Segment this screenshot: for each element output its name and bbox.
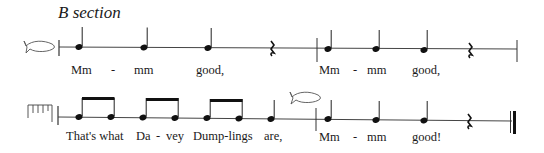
lyric-syllable: mm bbox=[367, 130, 386, 145]
fish-icon bbox=[24, 41, 54, 53]
quarter-note bbox=[324, 100, 333, 123]
staff-line-2 bbox=[28, 92, 516, 134]
lyric-syllable: mm bbox=[367, 63, 386, 78]
quarter-rest bbox=[271, 41, 274, 56]
lyric-syllable: Mm bbox=[319, 130, 340, 145]
quarter-note bbox=[75, 27, 84, 51]
lyric-hyphen: - bbox=[353, 63, 357, 78]
lyric-syllable: Mm bbox=[319, 63, 340, 78]
lyric-syllable: good! bbox=[412, 130, 441, 145]
quarter-note bbox=[420, 30, 429, 54]
quarter-note bbox=[140, 28, 149, 52]
lyric-syllable: That's what bbox=[66, 129, 123, 144]
quarter-note bbox=[324, 30, 333, 53]
final-double-barline bbox=[511, 111, 517, 134]
quarter-note bbox=[372, 101, 381, 124]
quarter-rest bbox=[469, 43, 472, 58]
lyric-hyphen: - bbox=[156, 129, 160, 144]
lyric-syllable: are, bbox=[264, 129, 282, 144]
quarter-rest bbox=[468, 114, 471, 129]
fish-icon bbox=[290, 92, 320, 104]
quarter-note bbox=[267, 100, 276, 123]
quarter-note bbox=[372, 30, 381, 53]
lyric-hyphen: - bbox=[353, 130, 357, 145]
lyric-syllable: mm bbox=[134, 63, 153, 78]
lyric-hyphen: - bbox=[111, 63, 115, 78]
lyric-syllable: Dump-lings bbox=[193, 129, 253, 144]
lyric-syllable: Da bbox=[136, 129, 151, 144]
staff-line-1 bbox=[24, 27, 517, 62]
lyric-syllable: good, bbox=[412, 63, 440, 78]
rake-icon bbox=[28, 105, 52, 122]
quarter-note bbox=[204, 28, 213, 52]
lyric-syllable: vey bbox=[166, 129, 184, 144]
quarter-note bbox=[420, 101, 429, 124]
lyric-syllable: good, bbox=[196, 63, 224, 78]
lyric-syllable: Mm bbox=[71, 63, 92, 78]
